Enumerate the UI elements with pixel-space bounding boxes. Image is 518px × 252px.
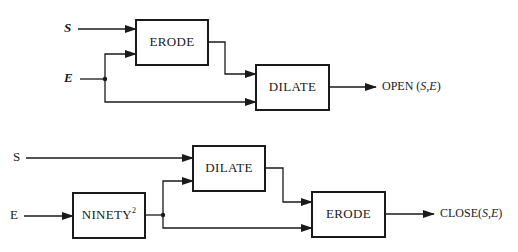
open-e-to-dilate-arrow <box>105 79 256 102</box>
open-output-label: OPEN (S,E) <box>382 79 441 93</box>
open-erode-to-dilate-arrow <box>208 42 256 74</box>
open-e-to-erode-arrow <box>105 54 136 79</box>
morphology-diagram: S E ERODE DILATE OPEN (S,E) S E <box>0 0 518 252</box>
open-dilate-block: DILATE <box>256 65 329 110</box>
open-dilate-label: DILATE <box>269 79 316 94</box>
close-ninety-label: NINETY2 <box>82 206 137 222</box>
close-ninety-to-dilate-arrow <box>163 181 193 215</box>
close-erode-label: ERODE <box>326 206 371 221</box>
close-input-e-label: E <box>10 207 18 222</box>
close-dilate-block: DILATE <box>193 146 265 191</box>
open-erode-block: ERODE <box>136 20 208 65</box>
open-input-s-label: S <box>64 20 71 35</box>
close-input-s-label: S <box>13 149 20 164</box>
close-dilate-to-erode-arrow <box>265 168 312 202</box>
open-erode-label: ERODE <box>150 34 195 49</box>
close-ninety-block: NINETY2 <box>73 193 145 238</box>
close-erode-block: ERODE <box>312 192 385 237</box>
opening-diagram: S E ERODE DILATE OPEN (S,E) <box>63 20 441 110</box>
close-ninety-to-erode-arrow <box>163 215 312 228</box>
close-dilate-label: DILATE <box>205 160 252 175</box>
closing-diagram: S E NINETY2 DILATE ERODE CLOSE(S,E) <box>10 146 502 238</box>
open-input-e-label: E <box>63 70 73 85</box>
close-output-label: CLOSE(S,E) <box>440 206 502 220</box>
